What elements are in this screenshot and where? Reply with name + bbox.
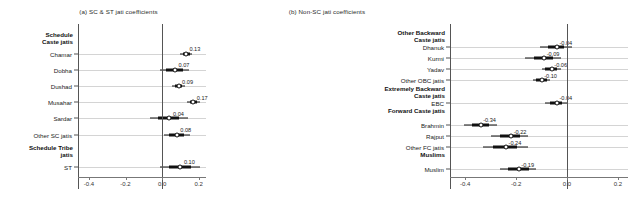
x-axis-tick-label: -0.4: [84, 181, 94, 187]
group-label-extremely-backward: Extremely BackwardCaste jatis: [384, 85, 445, 100]
zero-reference-line: [567, 24, 568, 189]
point-estimate-marker: [172, 67, 177, 72]
group-label-schedule: ScheduleCaste jatis: [42, 31, 73, 46]
point-value-label: 0.08: [180, 127, 191, 133]
x-axis-tick: [567, 177, 568, 180]
group-label-line-1: Schedule: [42, 31, 73, 39]
point-value-label: -0.19: [521, 162, 534, 168]
point-value-label: 0.07: [178, 62, 189, 68]
point-estimate-marker: [191, 100, 196, 105]
x-axis-tick-label: 0.2: [195, 181, 203, 187]
point-estimate-marker: [183, 51, 188, 56]
row-label-yadav: Yadav: [427, 66, 444, 73]
group-label-forward-caste-jatis: Forward Caste jatis: [388, 107, 445, 115]
point-value-label: -0.04: [559, 95, 572, 101]
point-value-label: -0.24: [509, 140, 522, 146]
row-label-muslim: Muslim: [424, 166, 444, 173]
point-value-label: 0.04: [173, 111, 184, 117]
point-value-label: -0.09: [547, 51, 560, 57]
panel-a-title: (a) SC & ST jati coefficients: [0, 8, 215, 15]
panel-a-plot-area: ScheduleCaste jatisChamar0.13Dobha0.07Du…: [78, 24, 206, 189]
zero-reference-line: [162, 24, 163, 189]
panel-a-sc-st: (a) SC & ST jati coefficients ScheduleCa…: [0, 0, 215, 217]
gridline: [450, 103, 628, 104]
row-label-other-fc-jatis: Other FC jatis: [406, 144, 444, 151]
x-axis-tick-label: -0.2: [511, 181, 521, 187]
point-value-label: -0.22: [514, 129, 527, 135]
gridline: [450, 47, 628, 48]
x-axis-tick: [89, 177, 90, 180]
row-label-musahar: Musahar: [48, 99, 72, 106]
point-value-label: 0.17: [197, 95, 208, 101]
group-label-line-1: Muslims: [420, 151, 445, 159]
group-label-line-1: Other Backward: [398, 29, 445, 37]
group-label-line-1: Extremely Backward: [384, 85, 445, 93]
x-axis-tick: [465, 177, 466, 180]
point-value-label: 0.10: [184, 159, 195, 165]
group-label-other-backward: Other BackwardCaste jatis: [398, 29, 445, 44]
row-label-kurmi: Kurmi: [428, 55, 444, 62]
x-axis-tick: [126, 177, 127, 180]
point-value-label: -0.06: [554, 62, 567, 68]
panel-b-plot-area: Other BackwardCaste jatisDhanuk-0.04Kurm…: [450, 24, 628, 189]
row-label-dobha: Dobha: [54, 66, 72, 73]
point-estimate-marker: [178, 164, 183, 169]
point-value-label: -0.04: [559, 40, 572, 46]
gridline: [450, 69, 628, 70]
row-label-rajput: Rajput: [426, 133, 444, 140]
row-label-other-sc-jatis: Other SC jatis: [33, 131, 72, 138]
x-axis-tick: [516, 177, 517, 180]
row-label-brahmin: Brahmin: [421, 121, 444, 128]
x-axis-tick-label: 0.0: [158, 181, 166, 187]
row-label-other-obc-jatis: Other OBC jatis: [401, 77, 444, 84]
point-value-label: 0.13: [189, 46, 200, 52]
x-axis-tick: [162, 177, 163, 180]
point-value-label: -0.10: [544, 73, 557, 79]
point-estimate-marker: [176, 84, 181, 89]
group-label-line-1: Schedule Tribe: [29, 144, 73, 152]
row-label-sardar: Sardar: [53, 115, 72, 122]
x-axis-tick-label: -0.2: [120, 181, 130, 187]
x-axis-tick-label: 0.2: [614, 181, 622, 187]
group-label-line-2: jatis: [29, 151, 73, 159]
point-value-label: 0.09: [182, 79, 193, 85]
point-estimate-marker: [174, 132, 179, 137]
y-axis-line: [78, 24, 79, 189]
x-axis-line: [450, 177, 628, 178]
row-label-dushad: Dushad: [51, 83, 72, 90]
row-label-dhanuk: Dhanuk: [423, 44, 444, 51]
gridline: [450, 169, 628, 170]
x-axis-tick-label: -0.4: [460, 181, 470, 187]
x-axis-tick-label: 0.0: [563, 181, 571, 187]
group-label-line-2: Caste jatis: [42, 38, 73, 46]
group-label-schedule-tribe: Schedule Tribejatis: [29, 144, 73, 159]
point-estimate-marker: [167, 116, 172, 121]
row-label-chamar: Chamar: [50, 50, 72, 57]
panel-b-non-sc: (b) Non-SC jati coefficients Other Backw…: [215, 0, 431, 217]
row-label-st: ST: [64, 163, 72, 170]
row-label-ebc: EBC: [431, 99, 444, 106]
group-label-line-1: Forward Caste jatis: [388, 107, 445, 115]
group-label-muslims: Muslims: [420, 151, 445, 159]
x-axis-tick: [199, 177, 200, 180]
gridline: [78, 86, 206, 87]
gridline: [450, 136, 628, 137]
gridline: [450, 147, 628, 148]
point-value-label: -0.34: [483, 117, 496, 123]
x-axis-line: [78, 177, 206, 178]
y-axis-line: [450, 24, 451, 189]
x-axis-tick: [618, 177, 619, 180]
panel-b-title: (b) Non-SC jati coefficients: [215, 8, 431, 15]
